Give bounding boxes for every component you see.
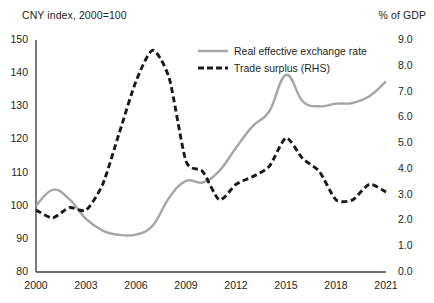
legend-item-real-effective-exchange-rate: Real effective exchange rate <box>198 45 367 57</box>
axis-lines <box>36 40 386 272</box>
legend-swatch-solid-line <box>198 45 228 57</box>
legend-item-trade-surplus: Trade surplus (RHS) <box>198 62 330 74</box>
legend-label-trade-surplus: Trade surplus (RHS) <box>234 62 330 74</box>
legend-label-reer: Real effective exchange rate <box>234 45 367 57</box>
series-line-reer <box>36 75 386 236</box>
chart-container: CNY index, 2000=100 % of GDP 15014013012… <box>0 0 434 303</box>
series-lines <box>36 50 386 235</box>
series-line-trade-surplus <box>36 50 386 218</box>
legend-swatch-dashed-line <box>198 62 228 74</box>
